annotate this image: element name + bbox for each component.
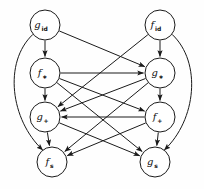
diagram-canvas: gidfidf∗g∗g+f+fsgs xyxy=(0,0,204,189)
node-g_mul[interactable]: g∗ xyxy=(145,58,175,88)
edge-f_id-to-g_s xyxy=(164,34,191,150)
node-g_id[interactable]: gid xyxy=(30,10,60,40)
node-f_mul[interactable]: f∗ xyxy=(30,58,60,88)
node-g_s[interactable]: gs xyxy=(140,147,170,177)
node-f_plus[interactable]: f+ xyxy=(145,102,175,132)
edge-g_plus-to-f_s xyxy=(47,132,49,145)
node-g_plus[interactable]: g+ xyxy=(30,102,60,132)
edge-g_id-to-f_s xyxy=(14,34,43,150)
node-f_s[interactable]: fs xyxy=(37,147,67,177)
edge-f_plus-to-g_s xyxy=(157,132,158,145)
graph-svg: gidfidf∗g∗g+f+fsgs xyxy=(0,0,204,189)
node-layer: gidfidf∗g∗g+f+fsgs xyxy=(30,10,175,177)
node-f_id[interactable]: fid xyxy=(145,10,175,40)
edge-layer xyxy=(14,31,192,156)
edge-f_id-to-g_plus xyxy=(58,35,148,107)
edge-g_id-to-g_mul xyxy=(59,31,144,67)
